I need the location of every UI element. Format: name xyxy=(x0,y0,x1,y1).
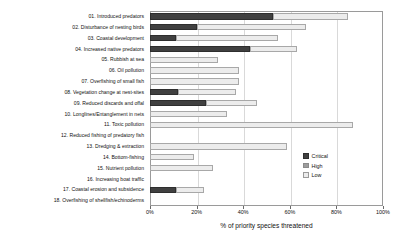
x-tick-label: 80% xyxy=(331,209,342,215)
stacked-bar[interactable] xyxy=(150,46,297,52)
stacked-bar[interactable] xyxy=(150,122,353,128)
legend-item-critical[interactable]: Critical xyxy=(303,152,328,160)
category-label: 04. Increased native predators xyxy=(75,44,144,55)
bar-segment-low xyxy=(176,187,204,193)
bar-segment-critical xyxy=(150,24,197,30)
legend: Critical High Low xyxy=(303,152,328,181)
legend-item-high[interactable]: High xyxy=(303,162,328,170)
bar-segment-low xyxy=(197,24,307,30)
category-label: 17. Coastal erosion and subsidence xyxy=(63,184,144,195)
bar-row xyxy=(150,141,383,152)
bar-row xyxy=(150,98,383,109)
bar-segment-critical xyxy=(150,100,206,106)
bar-row xyxy=(150,44,383,55)
legend-label-high: High xyxy=(312,162,323,170)
bar-row xyxy=(150,65,383,76)
stacked-bar[interactable] xyxy=(150,24,306,30)
bar-segment-low xyxy=(150,78,239,84)
bar-segment-critical xyxy=(150,89,178,95)
category-label: 18. Overfishing of shellfish/echinoderms xyxy=(54,195,144,206)
bar-segment-critical xyxy=(150,46,250,52)
stacked-bar[interactable] xyxy=(150,143,287,149)
bar-row xyxy=(150,195,383,206)
x-axis-title: % of priority species threatened xyxy=(150,222,383,229)
bar-segment-low xyxy=(150,67,239,73)
bar-row xyxy=(150,163,383,174)
bar-segment-low xyxy=(150,111,227,117)
stacked-bar[interactable] xyxy=(150,57,218,63)
category-label: 16. Increasing boat traffic xyxy=(87,174,144,185)
category-label: 09. Reduced discards and offal xyxy=(74,98,144,109)
bar-row xyxy=(150,109,383,120)
stacked-bar[interactable] xyxy=(150,67,239,73)
bar-segment-critical xyxy=(150,187,176,193)
bar-row xyxy=(150,11,383,22)
bar-segment-low xyxy=(176,35,279,41)
stacked-bar[interactable] xyxy=(150,111,227,117)
bar-segment-critical xyxy=(150,35,176,41)
bar-segment-low xyxy=(178,89,236,95)
stacked-bar[interactable] xyxy=(150,187,204,193)
category-label: 03. Coastal development xyxy=(88,33,144,44)
bar-segment-low xyxy=(150,143,287,149)
x-tick-label: 60% xyxy=(284,209,295,215)
category-label: 10. Longlines/Entanglement in nets xyxy=(64,109,144,120)
bar-segment-low xyxy=(150,165,213,171)
bar-row xyxy=(150,87,383,98)
x-tick-label: 40% xyxy=(238,209,249,215)
category-label: 01. Introduced predators xyxy=(88,11,144,22)
bar-segment-low xyxy=(250,46,297,52)
bar-row xyxy=(150,22,383,33)
legend-label-critical: Critical xyxy=(312,152,328,160)
category-label: 15. Nutrient pollution xyxy=(97,163,144,174)
x-tick-label: 0% xyxy=(146,209,154,215)
horizontal-stacked-bar-chart: 01. Introduced predators02. Disturbance … xyxy=(0,0,403,248)
legend-item-low[interactable]: Low xyxy=(303,171,328,179)
bar-row xyxy=(150,33,383,44)
legend-swatch-critical-icon xyxy=(303,153,309,159)
bar-row xyxy=(150,174,383,185)
category-label: 05. Rubbish at sea xyxy=(102,54,144,65)
bar-rows xyxy=(150,11,383,206)
category-label: 11. Toxic pollution xyxy=(104,119,144,130)
x-tick-label: 20% xyxy=(191,209,202,215)
category-label: 02. Disturbance of nesting birds xyxy=(72,22,144,33)
stacked-bar[interactable] xyxy=(150,13,348,19)
stacked-bar[interactable] xyxy=(150,35,278,41)
bar-segment-low xyxy=(150,154,194,160)
bar-segment-low xyxy=(206,100,257,106)
bar-row xyxy=(150,130,383,141)
bar-segment-low xyxy=(150,57,218,63)
stacked-bar[interactable] xyxy=(150,78,239,84)
legend-label-low: Low xyxy=(312,171,322,179)
bar-row xyxy=(150,184,383,195)
category-label: 14. Bottom-fishing xyxy=(103,152,144,163)
category-label: 06. Oil pollution xyxy=(109,65,144,76)
category-label: 13. Dredging & extraction xyxy=(87,141,144,152)
x-tick-label: 100% xyxy=(376,209,390,215)
category-axis-labels: 01. Introduced predators02. Disturbance … xyxy=(0,11,147,206)
bar-row xyxy=(150,152,383,163)
bar-segment-critical xyxy=(150,13,273,19)
bar-segment-low xyxy=(150,122,353,128)
legend-swatch-low-icon xyxy=(303,172,309,178)
stacked-bar[interactable] xyxy=(150,89,236,95)
category-label: 12. Reduced fishing of predatory fish xyxy=(61,130,144,141)
bar-segment-low xyxy=(273,13,348,19)
bar-row xyxy=(150,119,383,130)
bar-row xyxy=(150,76,383,87)
bar-row xyxy=(150,54,383,65)
category-label: 08. Vegetation change at nest-sites xyxy=(64,87,144,98)
category-label: 07. Overfishing of small fish xyxy=(81,76,144,87)
legend-swatch-high-icon xyxy=(303,163,309,169)
stacked-bar[interactable] xyxy=(150,100,257,106)
stacked-bar[interactable] xyxy=(150,165,213,171)
stacked-bar[interactable] xyxy=(150,154,194,160)
